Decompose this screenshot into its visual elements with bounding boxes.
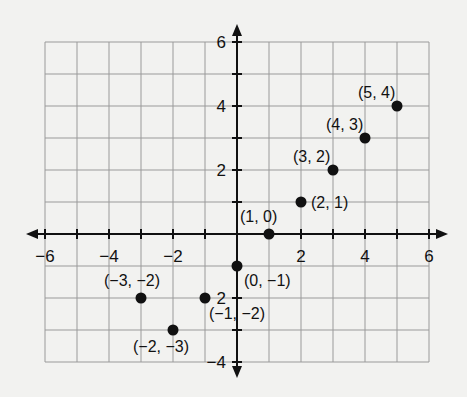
point-label: (−2, −3)	[133, 338, 189, 355]
coordinate-plane: −6 −4 −2 2 4 6 6 4 2 2 −4 (5, 4) (4, 3) …	[0, 0, 467, 397]
y-tick-label: 2	[217, 161, 226, 180]
point-label: (2, 1)	[311, 194, 348, 211]
point-label: (−3, −2)	[104, 272, 160, 289]
y-axis-up-arrow-icon	[232, 24, 242, 36]
point-2-1	[296, 197, 307, 208]
point-neg3-neg2	[136, 293, 147, 304]
point-neg2-neg3	[168, 325, 179, 336]
point-label: (1, 0)	[240, 208, 277, 225]
point-3-2	[328, 165, 339, 176]
x-tick-label: −2	[163, 247, 182, 266]
y-tick-label: −4	[207, 353, 226, 372]
point-label: (5, 4)	[358, 84, 395, 101]
x-tick-label: 6	[424, 247, 433, 266]
x-tick-label: 4	[360, 247, 369, 266]
point-label: (0, −1)	[244, 272, 291, 289]
axes	[26, 24, 448, 378]
point-label: (4, 3)	[326, 116, 363, 133]
y-tick-label: 6	[217, 33, 226, 52]
point-4-3	[360, 133, 371, 144]
point-1-0	[264, 229, 275, 240]
x-tick-label: −6	[35, 247, 54, 266]
x-axis-left-arrow-icon	[26, 229, 38, 239]
x-tick-label: 2	[296, 247, 305, 266]
point-0-neg1	[232, 261, 243, 272]
point-neg1-neg2	[200, 293, 211, 304]
point-5-4	[392, 101, 403, 112]
y-axis-down-arrow-icon	[232, 366, 242, 378]
y-tick-label: 4	[217, 97, 226, 116]
x-axis-right-arrow-icon	[436, 229, 448, 239]
x-tick-label: −4	[99, 247, 118, 266]
point-labels: (5, 4) (4, 3) (3, 2) (2, 1) (1, 0) (0, −…	[104, 84, 395, 355]
point-label: (3, 2)	[293, 148, 330, 165]
point-label: (−1, −2)	[209, 305, 265, 322]
